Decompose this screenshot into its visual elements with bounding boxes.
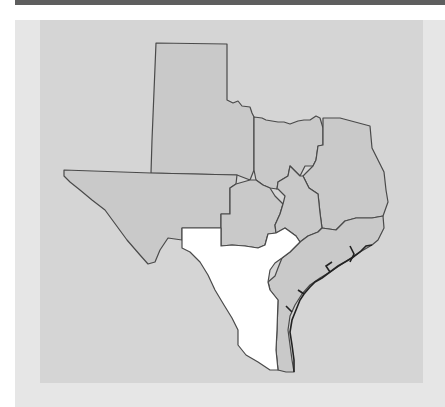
texas-regions-map — [0, 0, 445, 407]
region-panhandle[interactable] — [151, 43, 254, 180]
